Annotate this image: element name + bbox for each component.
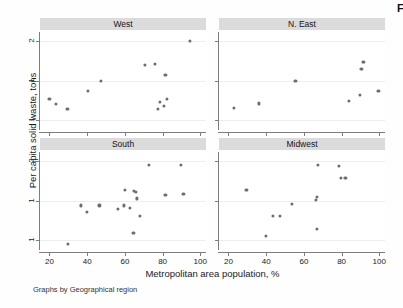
x-axis-tick	[342, 253, 343, 256]
x-axis-title: Metropolitan area population, %	[40, 268, 385, 279]
plot-area-north-east	[219, 32, 385, 130]
x-axis-tick-label: 80	[337, 257, 346, 266]
data-point	[117, 208, 120, 211]
x-axis-tick	[49, 253, 50, 256]
x-axis-tick	[304, 133, 305, 136]
data-point	[337, 164, 340, 167]
data-point	[257, 102, 260, 105]
y-axis-spine	[218, 32, 219, 130]
panel-title-west: West	[113, 20, 132, 29]
data-point	[164, 194, 167, 197]
data-point	[87, 89, 90, 92]
panel-title-south: South	[112, 140, 134, 149]
y-axis-tick	[36, 81, 39, 82]
data-point	[48, 98, 51, 101]
x-axis-tick-label: 20	[224, 257, 233, 266]
x-axis-tick	[87, 133, 88, 136]
x-axis-tick	[266, 253, 267, 256]
data-point	[316, 163, 319, 166]
panel-north-east: N. East	[219, 18, 385, 130]
y-axis-tick	[215, 201, 218, 202]
data-point	[348, 99, 351, 102]
y-axis-tick	[215, 81, 218, 82]
data-point	[279, 215, 282, 218]
gridline	[219, 120, 385, 121]
x-axis-spine	[218, 132, 385, 133]
panel-strip-midwest: Midwest	[219, 138, 385, 150]
x-axis-tick	[125, 133, 126, 136]
data-point	[316, 227, 319, 230]
gridline	[219, 240, 385, 241]
y-axis-tick	[215, 161, 218, 162]
panel-grid: West N. East South Midwest 2112112040608…	[40, 18, 385, 258]
gridline	[40, 201, 206, 202]
data-point	[138, 215, 141, 218]
data-point	[162, 104, 165, 107]
x-axis-tick-label: 20	[45, 257, 54, 266]
panel-strip-north-east: N. East	[219, 18, 385, 30]
data-point	[67, 242, 70, 245]
x-axis-tick-label: 60	[120, 257, 129, 266]
x-axis-tick-label: 40	[83, 257, 92, 266]
data-point	[290, 203, 293, 206]
y-axis-spine	[218, 152, 219, 250]
data-point	[360, 68, 363, 71]
y-axis-tick-label: 1	[27, 194, 36, 206]
clipped-corner-glyph: F	[397, 2, 403, 14]
x-axis-tick	[379, 133, 380, 136]
x-axis-spine	[39, 252, 206, 253]
data-point	[98, 204, 101, 207]
data-point	[164, 74, 167, 77]
gridline	[40, 41, 206, 42]
gridline	[40, 240, 206, 241]
data-point	[344, 176, 347, 179]
x-axis-tick	[379, 253, 380, 256]
figure-canvas: F Per capita solid waste, tons West N. E…	[0, 0, 403, 308]
data-point	[166, 98, 169, 101]
data-point	[271, 215, 274, 218]
y-axis-tick	[215, 41, 218, 42]
data-point	[123, 189, 126, 192]
y-axis-spine	[39, 152, 40, 250]
panel-west: West	[40, 18, 206, 130]
gridline	[40, 161, 206, 162]
x-axis-spine	[39, 132, 206, 133]
data-point	[294, 79, 297, 82]
y-axis-tick	[36, 240, 39, 241]
data-point	[265, 234, 268, 237]
gridline	[40, 120, 206, 121]
data-point	[135, 191, 138, 194]
data-point	[363, 60, 366, 63]
x-axis-spine	[218, 252, 385, 253]
x-axis-tick-label: 60	[299, 257, 308, 266]
x-axis-tick	[49, 133, 50, 136]
gridline	[219, 41, 385, 42]
panel-strip-south: South	[40, 138, 206, 150]
data-point	[245, 189, 248, 192]
x-axis-tick	[228, 133, 229, 136]
data-point	[66, 107, 69, 110]
x-axis-tick	[228, 253, 229, 256]
figure-note: Graphs by Geographical region	[33, 285, 137, 294]
y-axis-tick	[36, 201, 39, 202]
x-axis-tick-label: 100	[373, 257, 386, 266]
data-point	[122, 204, 125, 207]
y-axis-tick	[36, 120, 39, 121]
y-axis-tick	[215, 240, 218, 241]
y-axis-tick-label: 1	[27, 234, 36, 246]
data-point	[156, 107, 159, 110]
x-axis-tick-label: 40	[262, 257, 271, 266]
data-point	[154, 62, 157, 65]
gridline	[40, 81, 206, 82]
panel-south: South	[40, 138, 206, 250]
x-axis-tick	[342, 133, 343, 136]
x-axis-tick	[125, 253, 126, 256]
x-axis-tick	[163, 133, 164, 136]
data-point	[143, 63, 146, 66]
x-axis-tick-label: 100	[194, 257, 207, 266]
data-point	[86, 210, 89, 213]
panel-strip-west: West	[40, 18, 206, 30]
gridline	[219, 201, 385, 202]
data-point	[79, 204, 82, 207]
panel-title-midwest: Midwest	[286, 140, 317, 149]
